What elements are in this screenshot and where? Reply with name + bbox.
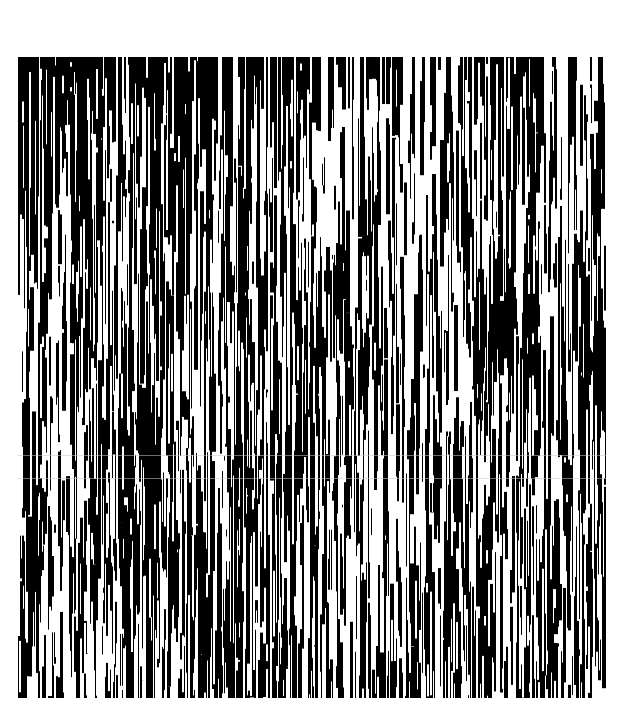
texture-canvas (18, 57, 606, 698)
scanline (18, 478, 606, 479)
scanline (18, 455, 606, 456)
streak-texture-image (18, 57, 606, 698)
